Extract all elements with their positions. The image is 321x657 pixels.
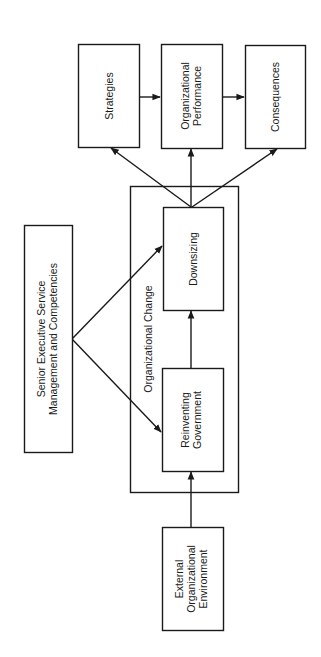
downsizing-label: Downsizing [187,232,199,286]
reinventing-label-line2: Government [191,391,203,449]
node-downsizing: Downsizing [164,208,224,311]
senior-label-line1: Senior Executive Service [35,280,47,397]
node-senior: Senior Executive Service Management and … [25,226,73,453]
diagram-canvas: Organizational Change Strategies Organiz… [0,0,321,657]
edge-downsizing-consequences [192,149,277,207]
reinventing-label-line1: Reinventing [179,392,191,448]
edge-downsizing-strategies [111,148,191,207]
org-change-label: Organizational Change [142,285,154,393]
strategies-label: Strategies [103,72,115,119]
consequences-label: Consequences [269,62,281,132]
flow-diagram: Organizational Change Strategies Organiz… [0,0,321,657]
external-label-line2: Organizational [185,545,197,613]
node-consequences: Consequences [246,46,306,149]
node-external: External Organizational Environment [163,528,224,631]
senior-label-line2: Management and Competencies [47,263,59,415]
node-strategies: Strategies [79,45,140,148]
node-performance: Organizational Performance [162,45,223,149]
performance-label-line2: Performance [191,66,203,126]
external-label-line1: External [173,560,185,599]
performance-label-line1: Organizational [179,62,191,130]
node-reinventing: Reinventing Government [163,369,224,472]
external-label-line3: Environment [197,549,209,608]
